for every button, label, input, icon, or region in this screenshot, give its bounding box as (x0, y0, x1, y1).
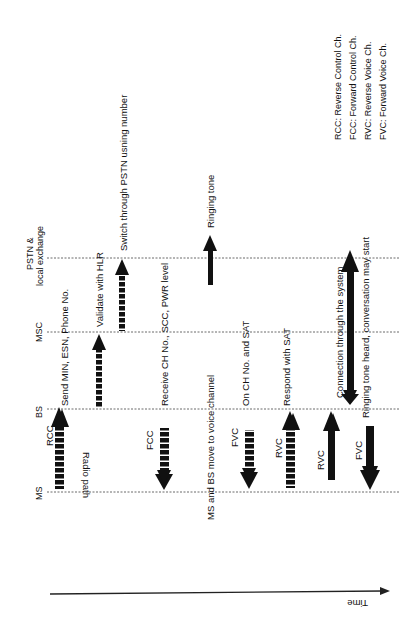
message-text-move-voice: MS and BS move to voice channel (205, 375, 216, 520)
message-validate-hlr: Validate with HLR (92, 252, 106, 408)
time-label: Time (347, 598, 368, 609)
message-rvc-respond: RVC Respond with SAT (273, 328, 300, 488)
legend: RCC: Reverse Control Ch. FCC: Forward Co… (333, 34, 388, 140)
entity-label-bs: BS (34, 406, 44, 418)
entity-label-pstn-2: local exchange (35, 226, 45, 286)
message-text-respond-sat: Respond with SAT (281, 328, 292, 406)
message-text-connection: Connection through the system (334, 266, 345, 398)
channel-label-fcc: FCC (144, 430, 155, 450)
message-rcc-send: RCC Send MIN, ESN, Phone No. (44, 289, 70, 489)
message-fvc-conversation: FVC Ringing tone heard, conversation may… (353, 237, 380, 490)
message-text-ringing: Ringing tone (205, 175, 216, 228)
message-text-validate: Validate with HLR (94, 252, 105, 327)
time-axis: Time (50, 587, 390, 609)
message-text-switch: Switch through PSTN usning number (118, 95, 129, 251)
legend-rcc: RCC: Reverse Control Ch. (333, 34, 343, 140)
message-text-on-ch: On CH No. and SAT (240, 320, 251, 406)
call-setup-sequence-diagram: MS BS MSC PSTN & local exchange Radio pa… (0, 0, 417, 623)
legend-fvc: FVC: Forward Voice Ch. (378, 43, 388, 140)
message-switch-pstn: Switch through PSTN usning number (115, 95, 129, 331)
message-ringing-tone: Ringing tone (203, 175, 217, 285)
channel-label-rvc-1: RVC (273, 438, 284, 458)
message-text-conversation: Ringing tone heard, conversation may sta… (360, 237, 371, 418)
radio-path-label: Radio path (81, 452, 92, 498)
channel-label-rvc-2: RVC (315, 450, 326, 470)
legend-rvc: RVC: Reverse Voice Ch. (363, 42, 373, 140)
message-text-receive-ch: Receive CH No., SCC, PWR level (159, 263, 170, 406)
channel-label-fvc-2: FVC (353, 441, 364, 460)
message-fvc-on-ch: FVC On CH No. and SAT (229, 320, 258, 489)
entity-label-pstn-1: PSTN & (25, 237, 35, 270)
message-fcc-receive: FCC Receive CH No., SCC, PWR level (144, 263, 173, 490)
entity-labels: MS BS MSC PSTN & local exchange (25, 226, 45, 500)
message-text-send-min: Send MIN, ESN, Phone No. (59, 289, 70, 406)
entity-label-ms: MS (34, 487, 44, 501)
entity-label-msc: MSC (34, 322, 44, 343)
channel-label-rcc: RCC (44, 425, 55, 446)
legend-fcc: FCC: Forward Control Ch. (348, 35, 358, 140)
channel-label-fvc: FVC (229, 428, 240, 447)
